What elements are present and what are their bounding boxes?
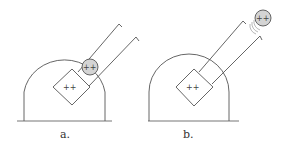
- tube-lip-upper: [119, 24, 122, 27]
- tube-lip-upper: [243, 21, 246, 24]
- particle-charge-label: ++: [83, 63, 96, 72]
- emitter-charge-label: ++: [63, 83, 76, 92]
- emitter-charge-label: ++: [186, 83, 199, 92]
- panel-a: ++ ++ a.: [17, 24, 139, 141]
- diagram-canvas: ++ ++ a. ++ ++ b.: [0, 0, 290, 147]
- tube-lip-lower: [136, 37, 139, 41]
- particle-charge-label: ++: [256, 14, 269, 23]
- tube-wall-lower: [212, 36, 260, 84]
- tube-wall-upper: [199, 21, 243, 72]
- tube-lip-lower: [260, 36, 262, 40]
- panel-label-a: a.: [60, 128, 70, 141]
- panel-label-b: b.: [183, 128, 194, 141]
- panel-b: ++ ++ b.: [148, 10, 271, 141]
